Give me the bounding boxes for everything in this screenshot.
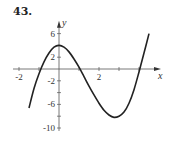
y-axis-label: y — [61, 17, 67, 28]
y-tick-label: 6 — [51, 29, 56, 39]
y-tick-label: -10 — [43, 123, 55, 133]
x-tick-label: 2 — [97, 72, 102, 82]
function-graph: -2262-2-6-10xy — [0, 0, 173, 147]
y-tick-label: -6 — [48, 99, 56, 109]
y-axis-arrow-icon — [57, 21, 61, 28]
x-axis-label: x — [157, 70, 163, 81]
y-tick-label: 2 — [51, 52, 56, 62]
y-tick-label: -2 — [48, 76, 56, 86]
x-tick-label: -2 — [15, 72, 23, 82]
